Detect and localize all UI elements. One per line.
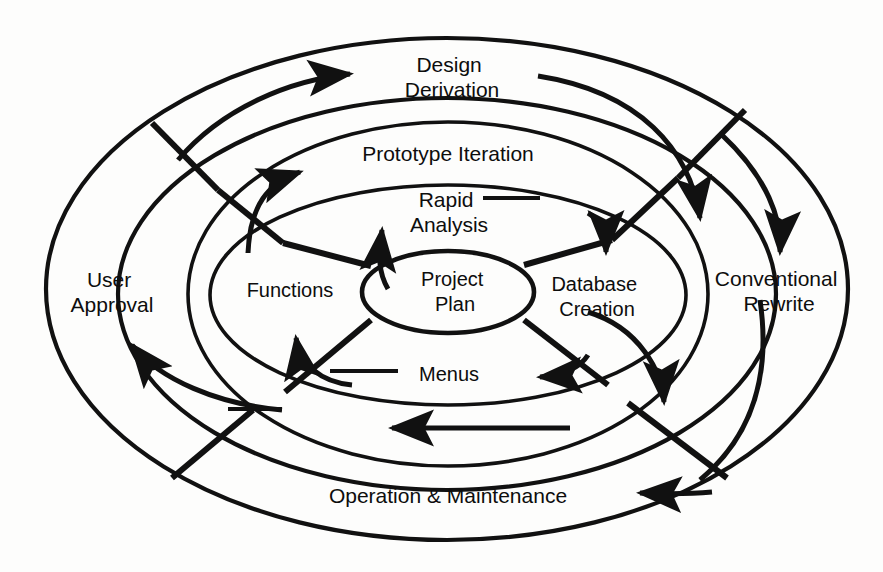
label-design-derivation-line2: Derivation [405,78,500,101]
label-rapid-analysis: Rapid Analysis [410,188,488,236]
label-project-plan-line1: Project [421,268,484,290]
label-user-approval: User Approval [71,268,154,316]
spoke-upper-right-inner [612,178,678,240]
label-conventional-rewrite-line1: Conventional [715,267,838,290]
spoke-lower-left-outer [172,410,253,478]
arrow-second-ring-down-right [588,312,664,402]
spiral-diagram-canvas: Design Derivation Conventional Rewrite O… [0,0,883,572]
label-project-plan-line2: Plan [435,293,475,315]
spoke-upper-right-outer [678,110,745,178]
label-menus: Menus [419,363,479,385]
label-prototype-iteration-line1: Prototype Iteration [362,142,534,165]
arrow-user-approval [132,345,282,410]
label-prototype-iteration: Prototype Iteration [362,142,534,165]
label-rapid-analysis-line1: Rapid [419,188,474,211]
label-functions-line1: Functions [247,279,334,301]
spoke-core-upper-right [524,240,612,265]
label-design-derivation: Design Derivation [405,53,500,101]
label-menus-line1: Menus [419,363,479,385]
label-design-derivation-line1: Design [416,53,481,76]
label-user-approval-line1: User [87,268,131,291]
label-database-creation-line2: Creation [559,298,635,320]
label-conventional-rewrite: Conventional Rewrite [715,267,843,315]
arrow-rapid-analysis [380,230,388,289]
label-conventional-rewrite-line2: Rewrite [743,292,814,315]
spoke-lower-right-inner [524,320,608,385]
label-database-creation-line1: Database [551,273,637,295]
arrow-operation-maintenance [640,492,712,494]
arrow-design-derivation [178,74,350,160]
spiral-diagram-root: Design Derivation Conventional Rewrite O… [0,0,883,572]
spoke-core-upper-left [283,243,371,266]
label-operation-maintenance-line1: Operation & Maintenance [329,484,567,507]
arrow-menus [540,355,588,377]
core-ellipse-project-plan [362,251,534,333]
label-operation-maintenance: Operation & Maintenance [329,484,567,507]
label-rapid-analysis-line2: Analysis [410,213,488,236]
label-functions: Functions [247,279,334,301]
label-database-creation: Database Creation [551,273,642,320]
label-project-plan: Project Plan [421,268,489,315]
label-user-approval-line2: Approval [71,293,154,316]
